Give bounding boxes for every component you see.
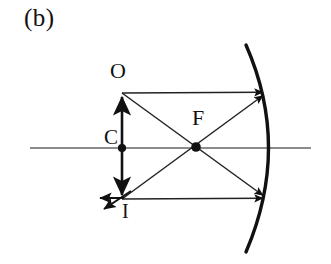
ray-parallel-bottom bbox=[122, 198, 263, 199]
ray-diagram-figure: (b) O C I F bbox=[0, 0, 331, 264]
image-label: I bbox=[122, 201, 129, 221]
focal-point-dot bbox=[191, 142, 201, 152]
center-of-curvature-label: C bbox=[104, 127, 118, 148]
ray-parallel-top bbox=[122, 92, 263, 93]
panel-label: (b) bbox=[24, 5, 55, 30]
object-label: O bbox=[110, 60, 126, 82]
center-of-curvature-dot bbox=[118, 144, 126, 152]
focal-point-label: F bbox=[192, 107, 204, 129]
ray-diagram-canvas bbox=[0, 0, 331, 264]
